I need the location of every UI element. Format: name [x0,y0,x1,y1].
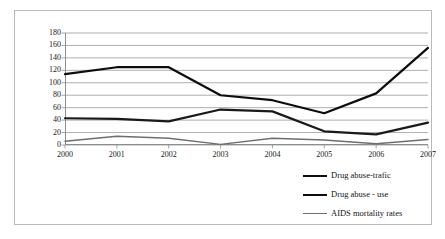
x-axis-label: 2007 [408,150,445,159]
y-axis-label: 80 [31,91,61,99]
x-axis-label: 2005 [304,150,344,159]
x-axis-label: 2001 [97,150,137,159]
legend-item-label: AIDS mortality rates [331,209,402,218]
thick-line-swatch [303,194,327,196]
y-axis-label: 100 [31,79,61,87]
y-axis-label: 0 [31,141,61,149]
legend-item-label: Drug abuse-trafic [331,171,391,180]
chart-frame: 180160140120100806040200 200020012002200… [14,10,432,225]
chart-legend: Drug abuse-traficDrug abuse - useAIDS mo… [303,166,443,223]
chart-figure: 180160140120100806040200 200020012002200… [0,0,445,239]
series-line [65,48,428,113]
legend-item-label: Drug abuse - use [331,190,388,199]
plot-area [65,33,428,145]
y-axis-label: 60 [31,104,61,112]
y-axis-label: 20 [31,129,61,137]
legend-item: Drug abuse - use [303,185,443,204]
x-axis-label: 2003 [201,150,241,159]
x-axis-label: 2006 [356,150,396,159]
series-line [65,136,428,144]
data-series [65,33,428,145]
y-axis-label: 40 [31,116,61,124]
legend-item: AIDS mortality rates [303,204,443,223]
y-axis-label: 160 [31,41,61,49]
y-axis-label: 180 [31,29,61,37]
y-axis-tick-labels: 180160140120100806040200 [29,33,61,145]
x-axis-label: 2002 [149,150,189,159]
x-axis-label: 2004 [252,150,292,159]
thin-line-swatch [303,213,327,214]
series-line [65,110,428,135]
x-axis-tick-labels: 20002001200220032004200520062007 [65,150,428,164]
y-axis-label: 140 [31,54,61,62]
thick-line-swatch [303,175,327,177]
legend-item: Drug abuse-trafic [303,166,443,185]
y-axis-label: 120 [31,66,61,74]
x-axis-label: 2000 [45,150,85,159]
